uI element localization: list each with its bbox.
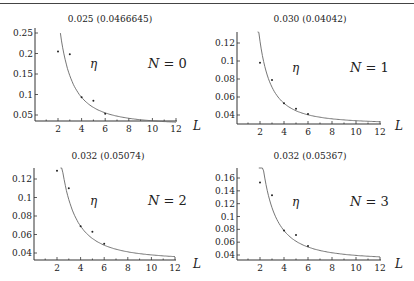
y-tick-label: 0.14 bbox=[215, 186, 235, 196]
data-point bbox=[295, 234, 297, 236]
eta-label: η bbox=[90, 194, 98, 208]
x-tick-label: 12 bbox=[169, 263, 180, 273]
y-tick-label: 0.12 bbox=[215, 199, 235, 209]
y-tick-label: 0.06 bbox=[215, 237, 235, 247]
x-tick-label: 10 bbox=[350, 127, 362, 137]
x-tick-label: 6 bbox=[102, 124, 108, 134]
panel-n1: 246810120.040.060.080.10.120.030 (0.0404… bbox=[215, 14, 403, 137]
y-tick-label: 0.12 bbox=[215, 38, 235, 48]
x-tick-label: 2 bbox=[257, 127, 263, 137]
data-point bbox=[271, 194, 273, 196]
data-point bbox=[92, 100, 94, 102]
x-tick-label: 8 bbox=[329, 263, 335, 273]
y-tick-label: 0.04 bbox=[12, 248, 32, 258]
data-point bbox=[68, 187, 70, 189]
eta-label: η bbox=[90, 57, 98, 71]
y-tick-label: 0.1 bbox=[221, 56, 235, 66]
panel-n3: 246810120.040.060.080.10.120.140.160.032… bbox=[215, 151, 403, 273]
n-label: N = 2 bbox=[147, 193, 187, 208]
panel-n0: 246810120.050.10.150.20.250.025 (0.04666… bbox=[13, 14, 201, 134]
y-tick-label: 0.08 bbox=[12, 211, 32, 221]
y-tick-label: 0.12 bbox=[12, 174, 32, 184]
x-tick-label: 4 bbox=[281, 263, 287, 273]
panel-title: 0.032 (0.05074) bbox=[72, 151, 145, 161]
data-point bbox=[56, 170, 58, 172]
data-point bbox=[259, 62, 261, 64]
x-tick-label: 10 bbox=[350, 263, 362, 273]
x-tick-label: 2 bbox=[257, 263, 263, 273]
x-tick-label: 2 bbox=[55, 124, 61, 134]
y-tick-label: 0.15 bbox=[13, 69, 33, 79]
data-point bbox=[307, 245, 309, 247]
y-tick-label: 0.1 bbox=[221, 212, 235, 222]
y-tick-label: 0.08 bbox=[215, 74, 235, 84]
data-point bbox=[81, 96, 83, 98]
data-point bbox=[69, 53, 71, 55]
fit-curve bbox=[61, 168, 176, 257]
x-axis-label: L bbox=[192, 119, 201, 133]
fit-curve bbox=[259, 168, 380, 257]
data-point bbox=[259, 181, 261, 183]
x-tick-label: 10 bbox=[146, 263, 158, 273]
y-tick-label: 0.25 bbox=[13, 28, 33, 38]
x-tick-label: 6 bbox=[101, 263, 107, 273]
y-tick-label: 0.04 bbox=[215, 110, 235, 120]
x-tick-label: 6 bbox=[305, 127, 311, 137]
n-label: N = 1 bbox=[349, 60, 389, 75]
figure-4-panels: 246810120.050.10.150.20.250.025 (0.04666… bbox=[0, 0, 414, 281]
x-axis-label: L bbox=[394, 257, 403, 271]
panel-n2: 246810120.040.060.080.10.120.032 (0.0507… bbox=[12, 151, 201, 273]
x-tick-label: 4 bbox=[79, 124, 85, 134]
n-label: N = 3 bbox=[349, 194, 389, 209]
data-point bbox=[91, 231, 93, 233]
x-tick-label: 12 bbox=[374, 263, 385, 273]
x-tick-label: 8 bbox=[126, 124, 132, 134]
x-tick-label: 2 bbox=[54, 263, 60, 273]
data-point bbox=[80, 225, 82, 227]
y-tick-label: 0.1 bbox=[18, 193, 32, 203]
data-point bbox=[57, 50, 59, 52]
x-tick-label: 8 bbox=[329, 127, 335, 137]
x-tick-label: 8 bbox=[125, 263, 131, 273]
y-tick-label: 0.1 bbox=[19, 90, 33, 100]
x-tick-label: 10 bbox=[147, 124, 159, 134]
x-tick-label: 12 bbox=[374, 127, 385, 137]
x-axis-label: L bbox=[394, 119, 403, 133]
panel-title: 0.030 (0.04042) bbox=[274, 14, 347, 24]
data-point bbox=[283, 102, 285, 104]
data-point bbox=[271, 79, 273, 81]
x-tick-label: 6 bbox=[305, 263, 311, 273]
x-tick-label: 4 bbox=[78, 263, 84, 273]
eta-label: η bbox=[292, 61, 300, 75]
x-axis-label: L bbox=[192, 257, 201, 271]
panel-title: 0.032 (0.05367) bbox=[274, 151, 347, 161]
eta-label: η bbox=[292, 195, 300, 209]
fit-curve bbox=[258, 32, 380, 122]
y-tick-label: 0.2 bbox=[19, 49, 33, 59]
x-tick-label: 4 bbox=[281, 127, 287, 137]
x-tick-label: 12 bbox=[170, 124, 181, 134]
y-tick-label: 0.08 bbox=[215, 224, 235, 234]
data-point bbox=[307, 113, 309, 115]
data-point bbox=[104, 113, 106, 115]
y-tick-label: 0.16 bbox=[215, 173, 235, 183]
n-label: N = 0 bbox=[147, 56, 187, 71]
data-point bbox=[103, 243, 105, 245]
y-tick-label: 0.06 bbox=[215, 92, 235, 102]
data-point bbox=[295, 108, 297, 110]
y-tick-label: 0.05 bbox=[13, 110, 33, 120]
y-tick-label: 0.06 bbox=[12, 230, 32, 240]
y-tick-label: 0.04 bbox=[215, 250, 235, 260]
data-point bbox=[283, 230, 285, 232]
panel-title: 0.025 (0.0466645) bbox=[68, 14, 152, 24]
fit-curve bbox=[60, 33, 176, 122]
